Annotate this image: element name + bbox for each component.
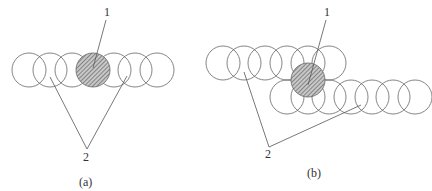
caption-a: (a)	[79, 175, 92, 189]
label-2-b: 2	[265, 147, 271, 161]
particle	[140, 53, 174, 87]
hatched-particle	[291, 63, 325, 97]
label-1-b: 1	[324, 5, 330, 19]
label-1-a: 1	[104, 5, 110, 19]
particle	[398, 80, 432, 114]
panel-b	[206, 46, 432, 114]
hatched-particle	[76, 53, 110, 87]
panel-a	[12, 53, 174, 87]
diagram-canvas: 1 2 (a) 1 2 (b)	[0, 0, 432, 191]
caption-b: (b)	[307, 166, 321, 180]
label-2-a: 2	[83, 150, 89, 164]
